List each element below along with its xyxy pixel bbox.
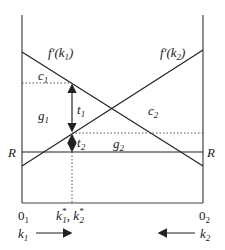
k2-direction-label: k2	[200, 226, 211, 243]
tax-competition-diagram: f'(k1) f'(k2) c1 c2 g1 g2 t1 t2 R R 01 0…	[0, 0, 225, 250]
r-label-right: R	[206, 145, 215, 160]
c2-label: c2	[148, 103, 159, 120]
g2-label: g2	[113, 136, 125, 153]
mpk1-label: f'(k1)	[48, 45, 73, 62]
origin2-label: 02	[199, 208, 210, 225]
t1-label: t1	[77, 102, 85, 119]
t2-label: t2	[77, 135, 86, 152]
r-label-left: R	[7, 145, 16, 160]
g1-label: g1	[38, 108, 49, 125]
equilibrium-label: k*1, k*2	[56, 206, 85, 225]
mpk2-label: f'(k2)	[160, 45, 185, 62]
origin1-label: 01	[18, 208, 29, 225]
c1-label: c1	[38, 68, 48, 85]
k1-direction-label: k1	[18, 226, 28, 243]
